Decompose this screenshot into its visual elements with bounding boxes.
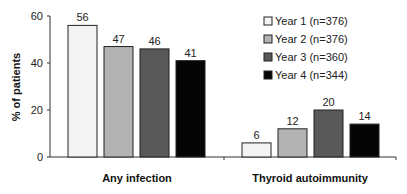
legend-label: Year 4 (n=344)	[275, 69, 348, 81]
y-tick-label: 20	[31, 104, 43, 116]
bar-value-label: 20	[322, 96, 334, 108]
bar	[176, 61, 205, 157]
legend-label: Year 2 (n=376)	[275, 33, 348, 45]
legend: Year 1 (n=376)Year 2 (n=376)Year 3 (n=36…	[264, 15, 348, 81]
bar-value-label: 46	[148, 35, 160, 47]
legend-swatch	[264, 17, 272, 25]
bar-value-label: 41	[184, 47, 196, 59]
bar	[242, 143, 271, 157]
legend-label: Year 1 (n=376)	[275, 15, 348, 27]
y-tick-label: 0	[37, 151, 43, 163]
y-tick-label: 60	[31, 10, 43, 22]
legend-swatch	[264, 35, 272, 43]
category-label: Any infection	[102, 172, 172, 184]
bar	[314, 110, 343, 157]
bar	[68, 25, 97, 157]
y-tick-label: 40	[31, 57, 43, 69]
bar	[350, 124, 379, 157]
bar-value-label: 56	[76, 11, 88, 23]
bar	[104, 47, 133, 157]
bar-value-label: 47	[112, 33, 124, 45]
bar	[140, 49, 169, 157]
bar-value-label: 12	[286, 115, 298, 127]
legend-label: Year 3 (n=360)	[275, 51, 348, 63]
bar-chart: % of patients 0204060 Any infection56474…	[0, 0, 407, 194]
category-label: Thyroid autoimmunity	[252, 172, 368, 184]
y-axis-label: % of patients	[10, 53, 22, 121]
bar-value-label: 6	[253, 129, 259, 141]
bar	[278, 129, 307, 157]
legend-swatch	[264, 53, 272, 61]
legend-swatch	[264, 71, 272, 79]
bar-value-label: 14	[358, 110, 370, 122]
